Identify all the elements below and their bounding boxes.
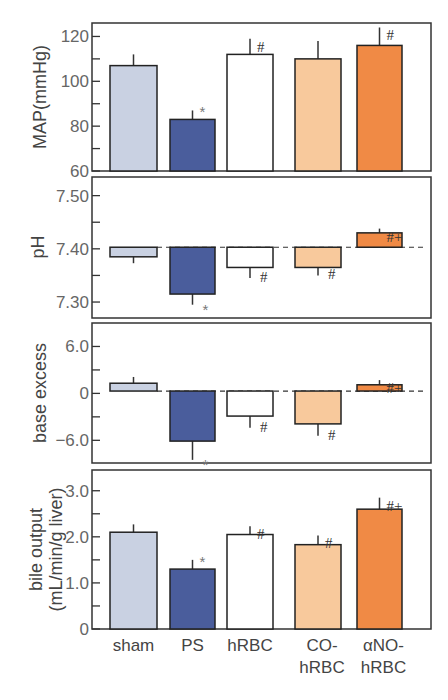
- x-category-label: hRBC: [227, 636, 272, 655]
- bar-co-hrbc: [295, 545, 341, 629]
- x-axis-category-labels: shamPShRBCCO-hRBCαNO-hRBC: [113, 636, 406, 677]
- significance-marker: #: [325, 535, 333, 551]
- ph-panel: 7.307.407.50*###+pH: [28, 177, 431, 318]
- y-axis-label: base excess: [30, 343, 50, 443]
- significance-marker: #+: [387, 380, 403, 396]
- significance-marker: #: [257, 39, 265, 55]
- y-tick-label: 3.0: [65, 482, 89, 501]
- y-tick-label: 0: [80, 384, 89, 403]
- y-axis-label: pH: [28, 235, 48, 258]
- significance-marker: #+: [387, 229, 403, 245]
- y-tick-label: 7.40: [56, 240, 89, 259]
- y-tick-label: 80: [70, 117, 89, 136]
- y-axis-unit-label: (mL/min/g liver): [46, 487, 66, 611]
- bar-co-hrbc: [295, 247, 341, 267]
- bar-ps: [170, 119, 215, 171]
- bar-co-hrbc: [295, 391, 341, 424]
- bar-hrbc: [227, 54, 273, 171]
- multi-panel-bar-chart: 6080100120*##MAP(mmHg) 7.307.407.50*###+…: [0, 0, 448, 700]
- x-category-label: αNO-: [363, 636, 404, 655]
- bile-output-panel: 01.02.03.0*###+bile output(mL/min/g live…: [26, 470, 431, 639]
- significance-marker: *: [200, 553, 206, 570]
- bar-hrbc: [227, 391, 273, 416]
- y-tick-label: 0: [80, 620, 89, 639]
- y-tick-label: 120: [61, 27, 89, 46]
- bar-sham: [110, 532, 157, 629]
- y-tick-label: 2.0: [65, 528, 89, 547]
- bar-alphano-hrbc: [357, 509, 402, 629]
- bar-ps: [170, 247, 215, 294]
- x-category-label: sham: [113, 636, 155, 655]
- bar-hrbc: [227, 535, 273, 629]
- x-category-label: hRBC: [361, 658, 406, 677]
- bar-hrbc: [227, 247, 273, 267]
- map-panel: 6080100120*##MAP(mmHg): [30, 23, 431, 181]
- significance-marker: #: [257, 526, 265, 542]
- significance-marker: #: [260, 269, 268, 285]
- significance-marker: *: [200, 103, 206, 120]
- bar-ps: [170, 391, 215, 441]
- bar-sham: [110, 247, 157, 257]
- significance-marker: #: [387, 27, 395, 43]
- base-excess-panel: −6.006.0*###+base excess: [30, 323, 431, 473]
- significance-marker: #: [328, 266, 336, 282]
- y-axis-label: bile output: [26, 508, 46, 591]
- bar-alphano-hrbc: [357, 45, 402, 171]
- y-axis-label: MAP(mmHg): [30, 45, 50, 149]
- y-tick-label: 7.30: [56, 293, 89, 312]
- y-tick-label: 1.0: [65, 574, 89, 593]
- y-tick-label: 100: [61, 72, 89, 91]
- bar-ps: [170, 569, 215, 629]
- significance-marker: #+: [387, 498, 403, 514]
- bar-co-hrbc: [295, 59, 341, 171]
- x-category-label: hRBC: [299, 658, 344, 677]
- bar-sham: [110, 66, 157, 171]
- significance-marker: #: [260, 419, 268, 435]
- significance-marker: #: [328, 427, 336, 443]
- significance-marker: *: [203, 301, 209, 318]
- x-category-label: PS: [181, 636, 204, 655]
- y-tick-label: 7.50: [56, 187, 89, 206]
- x-category-label: CO-: [306, 636, 337, 655]
- y-tick-label: −6.0: [55, 431, 89, 450]
- bar-sham: [110, 383, 157, 391]
- y-tick-label: 60: [70, 162, 89, 181]
- y-tick-label: 6.0: [65, 337, 89, 356]
